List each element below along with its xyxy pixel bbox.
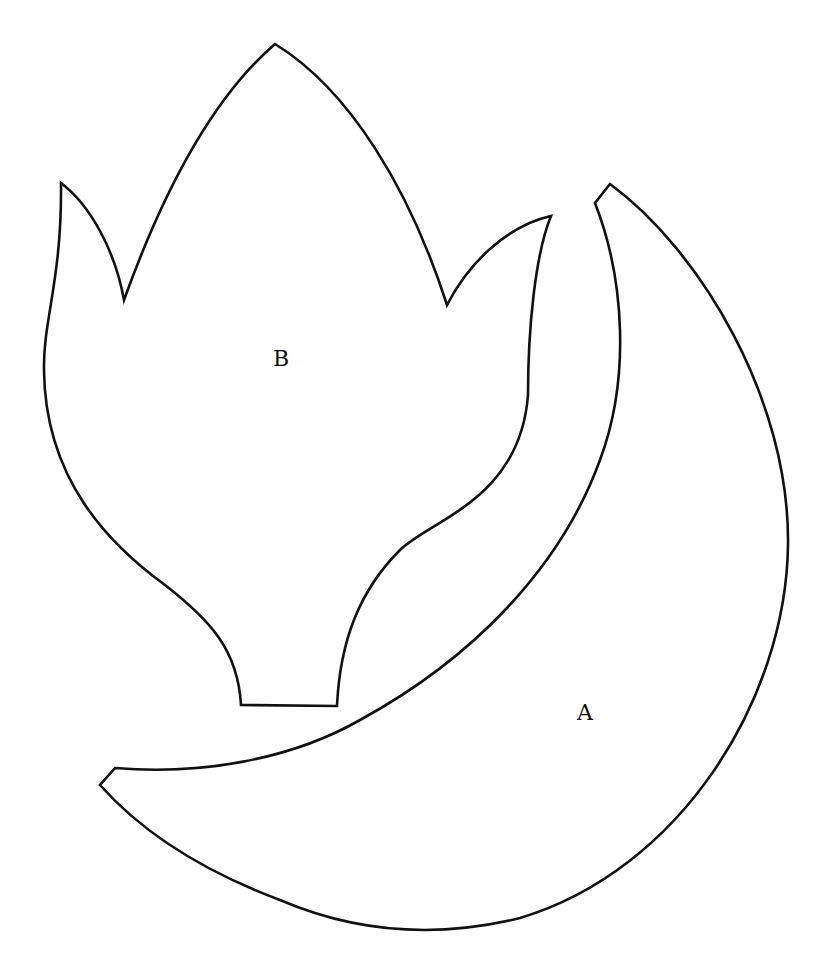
piece-b-outline — [44, 44, 551, 706]
piece-b: B — [44, 44, 551, 706]
piece-a-label: A — [576, 700, 594, 725]
piece-b-label: B — [273, 346, 289, 371]
pattern-figure: A B — [0, 0, 826, 974]
